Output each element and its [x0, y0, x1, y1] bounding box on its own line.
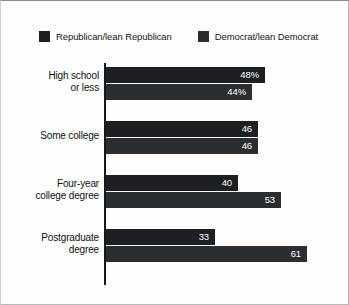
category-label-line2: college degree: [7, 190, 99, 202]
bar-group-postgraduate: Postgraduate degree 33 61: [1, 229, 349, 269]
legend-swatch-republican-icon: [39, 31, 50, 42]
legend-item-democrat: Democrat/lean Democrat: [198, 29, 318, 43]
category-label-line1: Some college: [7, 130, 99, 142]
category-label-line1: High school: [7, 70, 99, 82]
legend-swatch-democrat-icon: [198, 31, 209, 42]
bar-value-democrat-high-school: 44%: [227, 84, 252, 100]
bar-value-republican-some-college: 46: [242, 121, 258, 137]
legend-label-democrat: Democrat/lean Democrat: [215, 31, 318, 42]
category-label-some-college: Some college: [7, 130, 99, 142]
legend-label-republican: Republican/lean Republican: [56, 31, 172, 42]
category-label-line2: degree: [7, 244, 99, 256]
category-label-high-school: High school or less: [7, 70, 99, 93]
bar-value-democrat-postgraduate: 61: [291, 246, 307, 262]
bar-democrat-high-school: 44%: [106, 84, 252, 100]
category-label-line1: Four-year: [7, 178, 99, 190]
chart-legend: Republican/lean Republican Democrat/lean…: [39, 29, 318, 43]
bar-value-republican-high-school: 48%: [240, 67, 265, 83]
bar-group-high-school: High school or less 48% 44%: [1, 67, 349, 107]
category-label-line2: or less: [7, 82, 99, 94]
bar-republican-postgraduate: 33: [106, 229, 215, 245]
bar-democrat-postgraduate: 61: [106, 246, 307, 262]
bar-democrat-four-year: 53: [106, 192, 281, 208]
bar-republican-high-school: 48%: [106, 67, 265, 83]
plot-area: High school or less 48% 44% Some college…: [1, 59, 349, 289]
chart-frame: Republican/lean Republican Democrat/lean…: [0, 0, 349, 305]
bar-democrat-some-college: 46: [106, 138, 258, 154]
category-label-postgraduate: Postgraduate degree: [7, 232, 99, 255]
bar-value-republican-postgraduate: 33: [199, 229, 215, 245]
bar-group-some-college: Some college 46 46: [1, 121, 349, 161]
legend-item-republican: Republican/lean Republican: [39, 29, 172, 43]
bar-republican-four-year: 40: [106, 175, 238, 191]
category-label-four-year: Four-year college degree: [7, 178, 99, 201]
bar-value-republican-four-year: 40: [222, 175, 238, 191]
category-label-line1: Postgraduate: [7, 232, 99, 244]
bar-value-democrat-four-year: 53: [265, 192, 281, 208]
bar-value-democrat-some-college: 46: [242, 138, 258, 154]
bar-group-four-year: Four-year college degree 40 53: [1, 175, 349, 215]
bar-republican-some-college: 46: [106, 121, 258, 137]
